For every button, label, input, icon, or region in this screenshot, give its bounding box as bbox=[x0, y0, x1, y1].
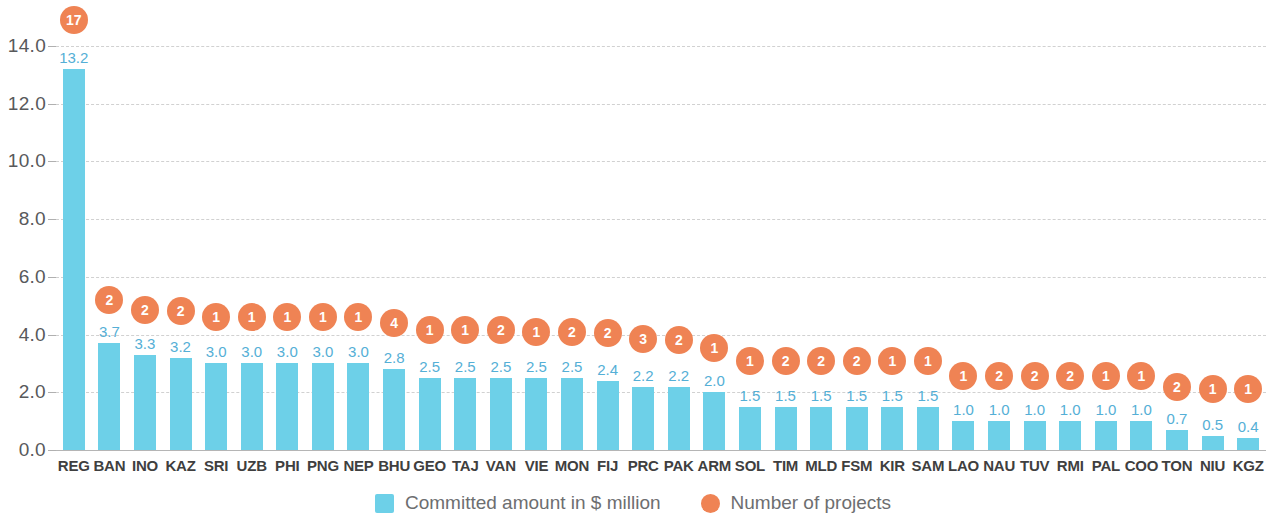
bar[interactable] bbox=[703, 392, 725, 450]
project-count-marker[interactable]: 2 bbox=[1163, 373, 1191, 401]
bar-group: 2.01 bbox=[697, 0, 733, 450]
legend-circle-icon bbox=[701, 494, 720, 513]
y-tick-mark bbox=[48, 392, 56, 393]
project-count-marker[interactable]: 3 bbox=[629, 325, 657, 353]
x-axis-category-label: UZB bbox=[237, 457, 267, 474]
project-count-marker[interactable]: 1 bbox=[878, 347, 906, 375]
x-axis-category-label: SOL bbox=[735, 457, 765, 474]
x-axis-category-label: FIJ bbox=[597, 457, 618, 474]
bar-group: 1.52 bbox=[839, 0, 875, 450]
project-count-marker[interactable]: 2 bbox=[1021, 362, 1049, 390]
project-count-marker[interactable]: 1 bbox=[416, 316, 444, 344]
x-axis-category-label: NAU bbox=[983, 457, 1015, 474]
project-count-marker[interactable]: 1 bbox=[700, 334, 728, 362]
project-count-marker[interactable]: 2 bbox=[594, 319, 622, 347]
bar[interactable] bbox=[98, 343, 120, 450]
project-count-marker[interactable]: 2 bbox=[772, 347, 800, 375]
bar[interactable] bbox=[1237, 438, 1259, 450]
bar[interactable] bbox=[205, 363, 227, 450]
bar[interactable] bbox=[561, 378, 583, 450]
x-axis-category-label: VAN bbox=[486, 457, 516, 474]
project-count-marker[interactable]: 2 bbox=[558, 318, 586, 346]
bar[interactable] bbox=[170, 358, 192, 450]
bar[interactable] bbox=[775, 407, 797, 450]
bar[interactable] bbox=[1166, 430, 1188, 450]
bar[interactable] bbox=[846, 407, 868, 450]
project-count-marker[interactable]: 1 bbox=[273, 303, 301, 331]
x-axis-category-label: PHI bbox=[275, 457, 299, 474]
bar[interactable] bbox=[597, 381, 619, 450]
bar[interactable] bbox=[739, 407, 761, 450]
bar[interactable] bbox=[419, 378, 441, 450]
bar[interactable] bbox=[917, 407, 939, 450]
bar-group: 1.51 bbox=[732, 0, 768, 450]
bar-value-label: 3.0 bbox=[277, 343, 298, 360]
project-count-marker[interactable]: 1 bbox=[1234, 375, 1262, 403]
bar-group: 3.01 bbox=[270, 0, 306, 450]
bar[interactable] bbox=[810, 407, 832, 450]
bar[interactable] bbox=[347, 363, 369, 450]
project-count-marker[interactable]: 2 bbox=[985, 362, 1013, 390]
bar[interactable] bbox=[241, 363, 263, 450]
project-count-marker[interactable]: 2 bbox=[487, 316, 515, 344]
project-count-marker[interactable]: 1 bbox=[522, 318, 550, 346]
project-count-marker[interactable]: 4 bbox=[380, 309, 408, 337]
x-axis-category-label: MLD bbox=[805, 457, 837, 474]
bar[interactable] bbox=[1024, 421, 1046, 450]
project-count-marker[interactable]: 17 bbox=[60, 6, 88, 34]
bar[interactable] bbox=[383, 369, 405, 450]
x-axis-category-label: SRI bbox=[204, 457, 228, 474]
x-axis-category-label: TAJ bbox=[452, 457, 479, 474]
project-count-marker[interactable]: 1 bbox=[1127, 362, 1155, 390]
project-count-marker[interactable]: 1 bbox=[1092, 362, 1120, 390]
bar-value-label: 1.5 bbox=[775, 387, 796, 404]
bar-group: 1.02 bbox=[1052, 0, 1088, 450]
bar[interactable] bbox=[668, 387, 690, 450]
project-count-marker[interactable]: 2 bbox=[131, 296, 159, 324]
project-count-marker[interactable]: 1 bbox=[309, 303, 337, 331]
project-count-marker[interactable]: 2 bbox=[1056, 362, 1084, 390]
bar[interactable] bbox=[276, 363, 298, 450]
bar[interactable] bbox=[134, 355, 156, 450]
y-tick-mark bbox=[48, 335, 56, 336]
bar-group: 3.01 bbox=[198, 0, 234, 450]
bar-group: 3.01 bbox=[234, 0, 270, 450]
x-axis-labels: REGBANINOKAZSRIUZBPHIPNGNEPBHUGEOTAJVANV… bbox=[56, 455, 1266, 481]
project-count-marker[interactable]: 1 bbox=[451, 316, 479, 344]
project-count-marker[interactable]: 1 bbox=[736, 347, 764, 375]
x-axis-category-label: LAO bbox=[948, 457, 979, 474]
project-count-marker[interactable]: 1 bbox=[949, 362, 977, 390]
project-count-marker[interactable]: 2 bbox=[843, 347, 871, 375]
bar[interactable] bbox=[1095, 421, 1117, 450]
project-count-marker[interactable]: 2 bbox=[665, 326, 693, 354]
bar-value-label: 1.5 bbox=[811, 387, 832, 404]
x-axis-category-label: PRC bbox=[628, 457, 659, 474]
project-count-marker[interactable]: 1 bbox=[202, 303, 230, 331]
bar[interactable] bbox=[1059, 421, 1081, 450]
y-axis-tick-label: 8.0 bbox=[19, 208, 46, 230]
legend-item[interactable]: Committed amount in $ million bbox=[375, 492, 661, 514]
bar[interactable] bbox=[63, 69, 85, 450]
bar[interactable] bbox=[525, 378, 547, 450]
plot-area: 13.2173.723.323.223.013.013.013.013.012.… bbox=[56, 0, 1266, 456]
project-count-marker[interactable]: 1 bbox=[238, 303, 266, 331]
bar[interactable] bbox=[988, 421, 1010, 450]
project-count-marker[interactable]: 1 bbox=[1199, 375, 1227, 403]
bar[interactable] bbox=[490, 378, 512, 450]
bar-group: 2.23 bbox=[625, 0, 661, 450]
bar[interactable] bbox=[1202, 436, 1224, 450]
project-count-marker[interactable]: 1 bbox=[344, 303, 372, 331]
bar[interactable] bbox=[632, 387, 654, 450]
bar[interactable] bbox=[881, 407, 903, 450]
bar[interactable] bbox=[952, 421, 974, 450]
bar[interactable] bbox=[1130, 421, 1152, 450]
bar[interactable] bbox=[312, 363, 334, 450]
legend-item[interactable]: Number of projects bbox=[701, 492, 892, 514]
bar-group: 3.72 bbox=[92, 0, 128, 450]
project-count-marker[interactable]: 2 bbox=[95, 286, 123, 314]
project-count-marker[interactable]: 2 bbox=[167, 297, 195, 325]
project-count-marker[interactable]: 1 bbox=[914, 347, 942, 375]
project-count-marker[interactable]: 2 bbox=[807, 347, 835, 375]
bar[interactable] bbox=[454, 378, 476, 450]
x-axis-category-label: GEO bbox=[413, 457, 446, 474]
